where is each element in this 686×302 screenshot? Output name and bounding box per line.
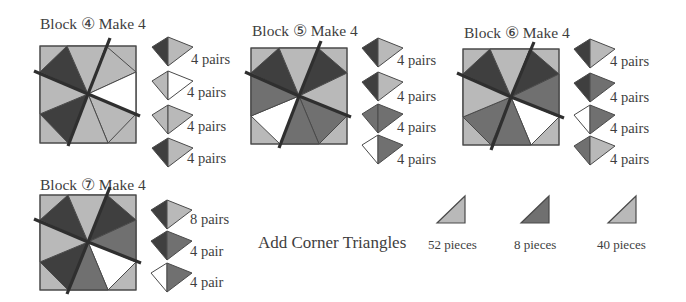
corner-triangle-label: 8 pieces	[514, 237, 556, 253]
block-7-diagram	[0, 0, 686, 302]
corner-triangle-icon	[607, 195, 639, 225]
pair-icon	[150, 230, 194, 262]
corner-triangle-icon	[436, 195, 468, 225]
corner-triangle-icon	[520, 195, 552, 225]
corner-triangle-label: 40 pieces	[597, 237, 646, 253]
corner-triangle-label: 52 pieces	[428, 237, 477, 253]
pair-icon	[150, 199, 194, 231]
pair-label: 8 pairs	[190, 211, 229, 228]
corner-triangles-label: Add Corner Triangles	[258, 233, 406, 253]
pair-label: 4 pair	[190, 243, 223, 260]
pair-icon	[150, 262, 194, 294]
pair-label: 4 pair	[190, 274, 223, 291]
